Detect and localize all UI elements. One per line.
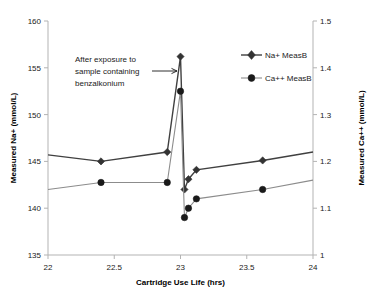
- x-axis-title: Cartridge Use Life (hrs): [136, 278, 225, 287]
- legend-label-na: Na+ MeasB: [265, 51, 307, 60]
- y-axis-title: Measured Na+ (mmol/L): [9, 92, 18, 183]
- benzalkonium-annotation: After exposure to sample containing benz…: [75, 55, 177, 88]
- data-point-circle: [98, 179, 104, 185]
- x-axis-ticks: [48, 255, 313, 259]
- x-tick-label-22-5: 22.5: [106, 263, 122, 272]
- data-point-diamond: [181, 186, 188, 193]
- y-tick-label-155: 155: [28, 64, 42, 73]
- legend-item-na[interactable]: Na+ MeasB: [241, 51, 307, 60]
- x-tick-label-24: 24: [309, 263, 318, 272]
- x-tick-label-23: 23: [176, 263, 185, 272]
- y-tick-label-135: 135: [28, 251, 42, 260]
- legend-label-ca: Ca++ MeasB: [265, 74, 312, 83]
- y2-tick-label-1-3: 1.3: [320, 111, 332, 120]
- y2-tick-label-1: 1: [320, 251, 325, 260]
- circle-marker-icon: [248, 75, 255, 82]
- y2-tick-label-1-4: 1.4: [320, 64, 332, 73]
- data-point-diamond: [259, 157, 266, 164]
- annotation-arrow-icon: [152, 68, 177, 73]
- diamond-marker-icon: [248, 51, 256, 60]
- data-point-circle: [185, 205, 191, 211]
- right-axis-ticks: [313, 21, 317, 255]
- x-tick-label-22: 22: [44, 263, 53, 272]
- legend-item-ca[interactable]: Ca++ MeasB: [241, 74, 312, 83]
- chart-legend: Na+ MeasB Ca++ MeasB: [241, 51, 312, 83]
- chart-figure: 135 140 145 150 155 160 1 1.1 1.2 1.3 1.…: [0, 0, 379, 292]
- data-point-circle: [259, 186, 265, 192]
- data-point-diamond: [164, 148, 171, 155]
- y2-tick-label-1-1: 1.1: [320, 204, 332, 213]
- data-point-circle: [177, 88, 183, 94]
- left-axis-ticks: [44, 21, 48, 255]
- series-ca: [48, 88, 313, 221]
- annotation-line-2: sample containing: [75, 67, 139, 76]
- series-line: [48, 91, 313, 217]
- y-tick-label-150: 150: [28, 111, 42, 120]
- data-point-circle: [164, 179, 170, 185]
- y-tick-label-145: 145: [28, 157, 42, 166]
- y-tick-label-140: 140: [28, 204, 42, 213]
- data-point-diamond: [97, 158, 104, 165]
- data-point-diamond: [177, 53, 184, 60]
- data-point-circle: [193, 196, 199, 202]
- y2-tick-label-1-2: 1.2: [320, 157, 332, 166]
- y2-tick-label-1-5: 1.5: [320, 17, 332, 26]
- x-tick-label-23-5: 23.5: [239, 263, 255, 272]
- data-point-circle: [181, 214, 187, 220]
- annotation-line-1: After exposure to: [75, 55, 136, 64]
- y2-axis-title: Measured Ca++ (mmol/L): [357, 90, 366, 185]
- chart-svg: 135 140 145 150 155 160 1 1.1 1.2 1.3 1.…: [0, 0, 379, 292]
- y-tick-label-160: 160: [28, 17, 42, 26]
- annotation-line-3: benzalkonium: [75, 79, 125, 88]
